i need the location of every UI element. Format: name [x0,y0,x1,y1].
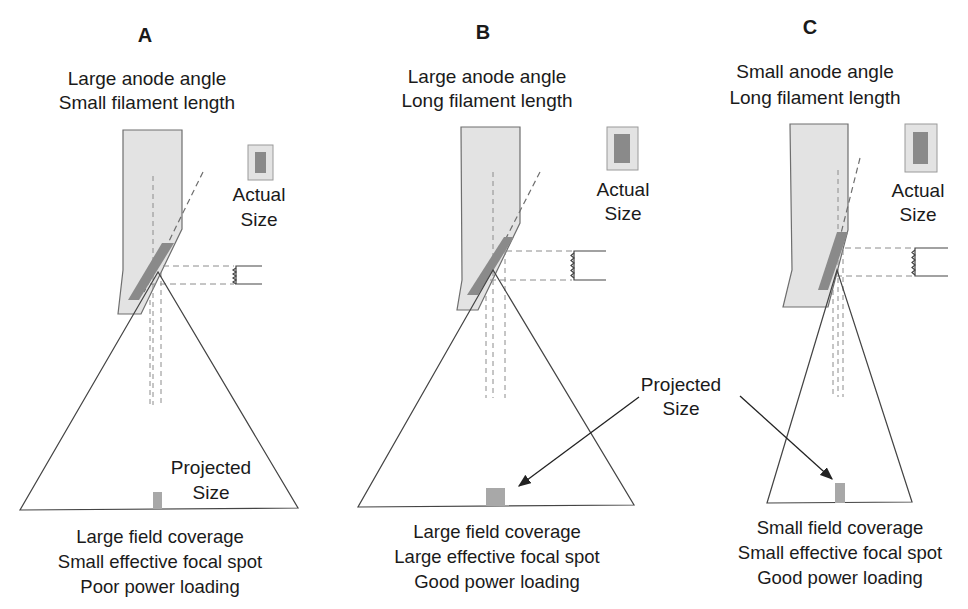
projected-spot-c [835,483,845,503]
panel-b-caption-line3: Good power loading [394,569,599,594]
panel-a-caption-line2: Small effective focal spot [58,549,262,574]
panel-c-letter: C [803,16,817,39]
shared-projected-size-label: Size [663,397,700,421]
panel-a-projected-size-label: Size [193,481,230,505]
panel-b-caption-line2: Large effective focal spot [394,544,599,569]
panel-b-title-line1: Large anode angle [408,65,566,89]
panel-a-actual-size-label: Size [241,208,278,232]
shared-projected-label: Projected [641,373,721,397]
panel-a-title-line2: Small filament length [59,91,235,115]
projected-arrow-c [740,396,832,479]
panel-b-caption-line1: Large field coverage [394,519,599,544]
panel-c-caption-line3: Good power loading [738,565,942,590]
panel-b-actual-label: Actual [597,178,650,202]
beam-triangle-b [358,270,634,507]
panel-b-letter: B [476,21,490,44]
filament-c [912,248,948,276]
panel-a-caption-line3: Poor power loading [58,574,262,599]
filament-b [571,251,606,280]
projected-spot-b [486,488,505,506]
panel-a-actual-label: Actual [233,183,286,207]
panel-a-projected-label: Projected [171,456,251,480]
panel-a-caption-line1: Large field coverage [58,524,262,549]
panel-b-caption: Large field coverage Large effective foc… [394,519,599,594]
panel-b-title-line2: Long filament length [401,89,572,113]
panel-c-caption-line1: Small field coverage [738,515,942,540]
projected-spot-a [153,492,162,509]
panel-b-actual-size-label: Size [605,202,642,226]
panel-c-actual-label: Actual [892,179,945,203]
panel-c-title-line1: Small anode angle [736,60,893,84]
anode-b [457,127,520,310]
panel-a-caption: Large field coverage Small effective foc… [58,524,262,599]
panel-c-caption: Small field coverage Small effective foc… [738,515,942,590]
panel-c-caption-line2: Small effective focal spot [738,540,942,565]
projected-arrow-b [519,397,639,486]
panel-c-title-line2: Long filament length [729,86,900,110]
filament-a [233,266,262,284]
panel-c-actual-size-label: Size [900,203,937,227]
panel-a-title-line1: Large anode angle [68,67,226,91]
panel-a-letter: A [138,24,152,47]
beam-triangle-a [20,272,298,510]
